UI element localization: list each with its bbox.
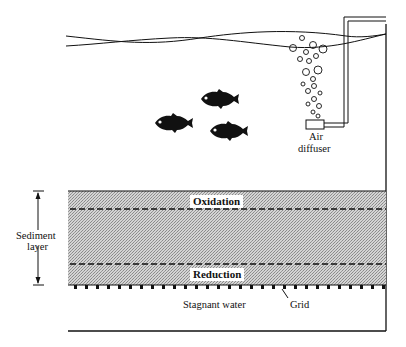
- air-diffuser-label-line1: Air: [309, 131, 323, 143]
- water-surface: [66, 32, 386, 48]
- fish-icon-3: [210, 121, 248, 141]
- air-tube: [324, 17, 386, 127]
- grid-label: Grid: [290, 299, 309, 311]
- air-diffuser-icon: [306, 120, 324, 129]
- fish-icon-2: [155, 113, 193, 133]
- diagram-drawing: [0, 0, 406, 347]
- reduction-label: Reduction: [190, 268, 244, 281]
- aquarium-diagram: Air diffuser Sediment layer Oxidation Re…: [0, 0, 406, 347]
- fish-icon-1: [201, 89, 239, 109]
- oxidation-label: Oxidation: [190, 195, 243, 208]
- sediment-label-line2: layer: [27, 241, 48, 253]
- grid: [68, 285, 386, 289]
- grid-pointer: [282, 289, 288, 298]
- air-diffuser-label-line2: diffuser: [298, 143, 330, 155]
- stagnant-water-label: Stagnant water: [183, 299, 246, 311]
